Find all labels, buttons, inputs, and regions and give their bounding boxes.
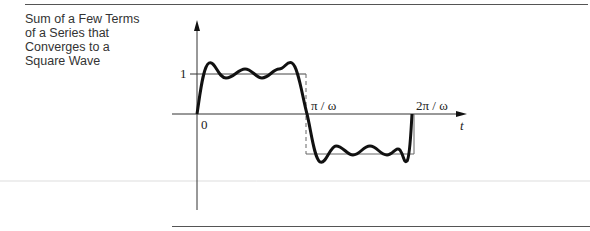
fourier-partial-sum-curve	[197, 62, 412, 162]
x-axis-label-t: t	[460, 118, 464, 133]
x-axis-arrow-icon	[456, 111, 467, 117]
x-tick-label-2pi-over-omega: 2π / ω	[416, 98, 448, 113]
x-tick-label-0: 0	[201, 117, 208, 132]
x-tick-label-pi-over-omega: π / ω	[311, 98, 337, 113]
y-axis-arrow-icon	[194, 20, 200, 31]
y-tick-label-1: 1	[180, 66, 187, 81]
square-wave-chart: 1 0 π / ω 2π / ω t	[0, 0, 590, 231]
